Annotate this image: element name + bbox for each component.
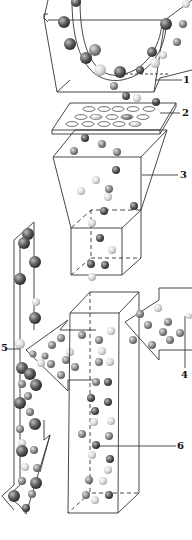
component-3-balls — [70, 134, 138, 281]
diagram: 1 2 3 4 5 6 — [0, 0, 192, 540]
label-6: 6 — [177, 441, 184, 451]
label-5: 5 — [1, 343, 8, 353]
component-4-balls — [129, 304, 192, 349]
label-4: 4 — [181, 370, 188, 380]
diagram-svg — [0, 0, 192, 540]
label-3: 3 — [180, 170, 187, 180]
label-2: 2 — [182, 108, 189, 118]
component-2-sieve — [52, 103, 176, 134]
component-4-right-arrow — [125, 288, 192, 360]
component-6-balls — [78, 327, 115, 504]
label-1: 1 — [183, 75, 190, 85]
